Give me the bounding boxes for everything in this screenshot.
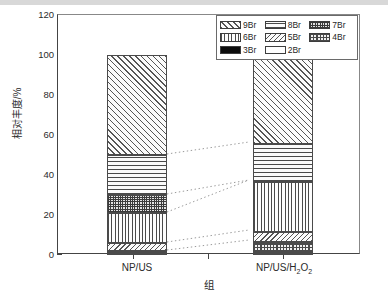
legend-item-2Br[interactable]: 2Br <box>265 46 310 55</box>
ytick-label-120: 120 <box>24 10 54 20</box>
legend-item-7Br[interactable]: 7Br <box>309 21 354 30</box>
segment-np-us-h2o2-9Br[interactable] <box>253 55 313 144</box>
legend-label-9Br: 9Br <box>243 21 256 30</box>
segment-np-us-4Br[interactable] <box>107 251 167 253</box>
segment-np-us-6Br[interactable] <box>107 213 167 243</box>
legend-item-9Br[interactable]: 9Br <box>220 21 265 30</box>
segment-np-us-h2o2-5Br[interactable] <box>253 232 313 242</box>
legend-swatch-2Br <box>265 46 286 55</box>
legend-swatch-3Br <box>220 46 241 55</box>
segment-np-us-7Br[interactable] <box>107 195 167 213</box>
bar-np-us[interactable] <box>107 15 167 255</box>
legend-row-2: 6Br 5Br 4Br <box>220 31 354 44</box>
segment-np-us-9Br[interactable] <box>107 55 167 155</box>
legend-item-4Br[interactable]: 4Br <box>309 33 354 42</box>
ytick-label-80: 80 <box>24 90 54 100</box>
legend-label-6Br: 6Br <box>243 33 256 42</box>
ytick-label-0: 0 <box>24 250 54 260</box>
ytick-mark-0 <box>57 254 62 255</box>
legend-swatch-7Br <box>309 21 330 30</box>
legend-label-3Br: 3Br <box>243 46 256 55</box>
legend-label-7Br: 7Br <box>332 21 345 30</box>
legend-item-8Br[interactable]: 8Br <box>265 21 310 30</box>
ytick-label-100: 100 <box>24 50 54 60</box>
legend-swatch-6Br <box>220 33 241 42</box>
legend-label-5Br: 5Br <box>288 33 301 42</box>
x-axis-label: 组 <box>57 277 360 292</box>
legend-swatch-5Br <box>265 33 286 42</box>
segment-np-us-h2o2-3Br[interactable] <box>253 252 313 254</box>
legend[interactable]: 9Br 8Br 7Br 6Br 5Br 4Br <box>216 15 358 60</box>
xtick-label-np-us-h2o2: NP/US/H2O2 <box>246 262 322 275</box>
segment-np-us-8Br[interactable] <box>107 155 167 195</box>
legend-item-3Br[interactable]: 3Br <box>220 46 265 55</box>
legend-row-1: 9Br 8Br 7Br <box>220 19 354 32</box>
legend-label-2Br: 2Br <box>288 46 301 55</box>
legend-swatch-4Br <box>309 33 330 42</box>
ytick-label-20: 20 <box>24 210 54 220</box>
xtick-mark-center <box>208 254 209 259</box>
legend-item-6Br[interactable]: 6Br <box>220 33 265 42</box>
segment-np-us-h2o2-8Br[interactable] <box>253 144 313 182</box>
legend-label-4Br: 4Br <box>332 33 345 42</box>
segment-np-us-h2o2-4Br[interactable] <box>253 242 313 252</box>
legend-row-3: 3Br 2Br <box>220 44 354 57</box>
legend-swatch-8Br <box>265 21 286 30</box>
ytick-label-60: 60 <box>24 130 54 140</box>
segment-np-us-5Br[interactable] <box>107 243 167 251</box>
legend-label-8Br: 8Br <box>288 21 301 30</box>
segment-np-us-h2o2-6Br[interactable] <box>253 182 313 232</box>
ytick-label-40: 40 <box>24 170 54 180</box>
stacked-bar-chart: 120 100 80 60 40 20 0 相对丰度/% <box>0 0 388 295</box>
y-axis-label: 相对丰度/% <box>9 74 24 154</box>
legend-item-5Br[interactable]: 5Br <box>265 33 310 42</box>
legend-swatch-9Br <box>220 21 241 30</box>
xtick-label-np-us: NP/US <box>103 262 171 273</box>
